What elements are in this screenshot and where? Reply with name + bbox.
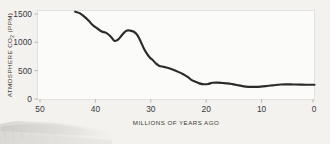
y-axis-title-suffix: (PPM) bbox=[6, 13, 13, 35]
y-tick-label-500: 500 bbox=[18, 66, 32, 76]
x-tick-label-20: 20 bbox=[202, 104, 212, 114]
x-tick-label-50: 50 bbox=[35, 104, 45, 114]
y-tick-label-0: 0 bbox=[27, 94, 32, 104]
y-tick-label-1500: 1500 bbox=[13, 9, 32, 19]
y-axis-title-prefix: ATMOSPHERE CO bbox=[6, 38, 13, 98]
x-tick-label-30: 30 bbox=[146, 104, 156, 114]
x-axis-ticks bbox=[40, 100, 313, 103]
co2-line-chart: 1500 1000 500 0 50 40 30 20 10 0 MILLION… bbox=[0, 0, 330, 144]
y-axis-ticks bbox=[35, 14, 38, 99]
x-axis-title: MILLIONS OF YEARS AGO bbox=[133, 119, 219, 126]
figure-panel: 1500 1000 500 0 50 40 30 20 10 0 MILLION… bbox=[0, 0, 330, 144]
x-tick-label-0: 0 bbox=[312, 104, 317, 114]
x-tick-label-40: 40 bbox=[91, 104, 101, 114]
svg-text:ATMOSPHERE CO2 (PPM): ATMOSPHERE CO2 (PPM) bbox=[6, 13, 15, 98]
y-tick-label-1000: 1000 bbox=[13, 37, 32, 47]
chart-container: 1500 1000 500 0 50 40 30 20 10 0 MILLION… bbox=[0, 0, 330, 144]
x-tick-label-10: 10 bbox=[257, 104, 267, 114]
y-axis-title: ATMOSPHERE CO2 (PPM) bbox=[6, 13, 15, 98]
